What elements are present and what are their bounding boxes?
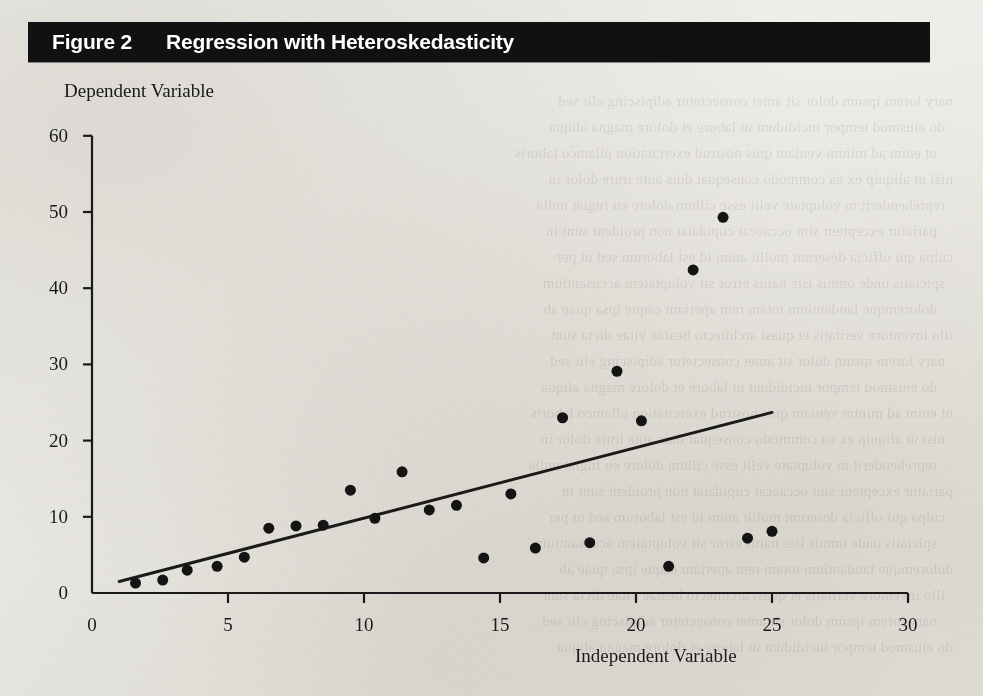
figure-container: Figure 2 Regression with Heteroskedastic… (0, 0, 983, 696)
data-point (424, 504, 435, 515)
scatter-plot-canvas (0, 0, 983, 696)
data-point (182, 565, 193, 576)
x-tick-label: 10 (355, 614, 374, 636)
data-point (636, 415, 647, 426)
axes-group (92, 136, 908, 593)
data-point (557, 412, 568, 423)
data-point (212, 561, 223, 572)
data-point (742, 533, 753, 544)
y-tick-label: 40 (49, 277, 68, 299)
data-points-group (130, 212, 777, 589)
data-point (397, 466, 408, 477)
data-point (688, 264, 699, 275)
data-point (718, 212, 729, 223)
data-point (291, 520, 302, 531)
data-point (157, 575, 168, 586)
y-tick-label: 60 (49, 125, 68, 147)
regression-line (119, 412, 772, 581)
y-tick-label: 20 (49, 430, 68, 452)
data-point (767, 526, 778, 537)
y-tick-label: 30 (49, 353, 68, 375)
data-point (584, 537, 595, 548)
data-point (663, 561, 674, 572)
x-tick-label: 0 (87, 614, 97, 636)
data-point (451, 500, 462, 511)
x-tick-label: 20 (627, 614, 646, 636)
data-point (478, 552, 489, 563)
data-point (611, 366, 622, 377)
data-point (530, 543, 541, 554)
x-tick-label: 25 (763, 614, 782, 636)
data-point (345, 485, 356, 496)
data-point (318, 520, 329, 531)
y-tick-label: 0 (59, 582, 69, 604)
data-point (505, 488, 516, 499)
data-point (369, 513, 380, 524)
data-point (130, 578, 141, 589)
y-tick-label: 10 (49, 506, 68, 528)
data-point (239, 552, 250, 563)
x-tick-label: 30 (899, 614, 918, 636)
data-point (263, 523, 274, 534)
x-tick-label: 15 (491, 614, 510, 636)
regression-line-group (119, 412, 772, 581)
y-tick-label: 50 (49, 201, 68, 223)
x-tick-label: 5 (223, 614, 233, 636)
axis-ticks-group (83, 136, 908, 603)
